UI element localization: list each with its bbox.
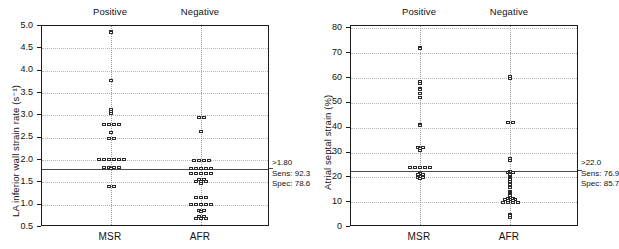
specificity-value: Spec: 78.6 [272,179,310,190]
data-point-afr [508,159,512,162]
y-tick-mark [346,77,350,78]
data-point-msr [418,82,422,85]
y-tick-mark [346,52,350,53]
cutoff-annotation: >1.80 Sens: 92.3 Spec: 78.6 [272,158,310,190]
data-point-afr [199,217,203,220]
data-point-msr [112,185,116,188]
sensitivity-value: Sens: 76.9 [581,169,619,180]
data-point-msr [413,166,417,169]
y-tick-label: 0.5 [0,222,33,231]
data-point-afr [194,167,198,170]
y-tick-mark [37,226,41,227]
y-tick-label: 4.5 [0,43,33,52]
data-point-msr [122,158,126,161]
gridline-horizontal [351,103,577,104]
cutoff-line-extension [269,168,273,169]
gridline-horizontal [42,160,268,161]
y-tick-label: 4.0 [0,65,33,74]
y-tick-label: 30 [308,147,342,156]
data-point-msr [418,166,422,169]
y-tick-label: 50 [308,97,342,106]
data-point-afr [209,167,213,170]
data-point-afr [194,203,198,206]
data-point-msr [102,158,106,161]
data-point-msr [107,158,111,161]
gridline-horizontal [42,93,268,94]
y-tick-mark [346,152,350,153]
plot-area [350,25,578,226]
data-point-afr [199,167,203,170]
data-point-msr [97,158,101,161]
data-point-afr [199,182,203,185]
data-point-afr [194,196,198,199]
gridline-horizontal [42,48,268,49]
gridline-horizontal [42,182,268,183]
data-point-msr [102,166,106,169]
data-point-afr [204,172,208,175]
cutoff-value: >22.0 [581,158,619,169]
data-point-afr [508,180,512,183]
data-point-msr [109,112,113,115]
data-point-msr [102,123,106,126]
data-point-msr [112,123,116,126]
y-tick-mark [37,181,41,182]
data-point-afr [199,172,203,175]
data-point-afr [508,216,512,219]
y-tick-label: 80 [308,23,342,32]
gridline-horizontal [351,53,577,54]
data-point-afr [209,172,213,175]
y-tick-label: 40 [308,122,342,131]
group-header-positive: Positive [70,6,150,17]
y-tick-label: 20 [308,172,342,181]
data-point-afr [199,210,203,213]
data-point-msr [418,96,422,99]
data-point-msr [109,167,113,170]
data-point-afr [192,159,196,162]
data-point-msr [107,123,111,126]
data-point-msr [418,88,422,91]
data-point-msr [109,131,113,134]
cutoff-annotation: >22.0 Sens: 76.9 Spec: 85.7 [581,158,619,190]
y-tick-mark [346,176,350,177]
gridline-horizontal [351,177,577,178]
specificity-value: Spec: 85.7 [581,179,619,190]
data-point-afr [199,203,203,206]
data-point-afr [508,186,512,189]
data-point-afr [207,159,211,162]
group-header-negative: Negative [469,6,549,17]
cutoff-threshold-line [351,171,577,172]
sensitivity-value: Sens: 92.3 [272,169,310,180]
data-point-afr [511,201,515,204]
data-point-msr [112,137,116,140]
y-tick-label: 10 [308,197,342,206]
y-tick-mark [37,70,41,71]
y-tick-mark [37,25,41,26]
data-point-afr [194,172,198,175]
data-point-afr [199,196,203,199]
group-header-positive: Positive [379,6,459,17]
y-tick-mark [37,137,41,138]
x-category-msr: MSR [70,231,150,242]
y-tick-label: 70 [308,48,342,57]
panel-atrial-septal-strain: Positive Negative Atrial septal strain (… [309,0,618,249]
data-point-msr [117,158,121,161]
y-tick-mark [37,114,41,115]
y-tick-label: 3.0 [0,110,33,119]
cutoff-line-extension [578,170,582,171]
data-point-msr [418,47,422,50]
x-category-afr: AFR [469,231,549,242]
y-tick-label: 1.5 [0,177,33,186]
data-point-msr [109,79,113,82]
y-tick-mark [37,47,41,48]
data-point-afr [508,77,512,80]
data-point-afr [189,167,193,170]
cutoff-threshold-line [42,169,268,170]
data-point-afr [204,196,208,199]
data-point-msr [418,177,422,180]
y-tick-label: 2.5 [0,132,33,141]
plot-area [41,25,269,226]
data-point-afr [189,172,193,175]
gridline-horizontal [351,28,577,29]
data-point-afr [194,217,198,220]
y-axis-label: LA inferior wall strain rate (s⁻¹) [10,85,21,217]
